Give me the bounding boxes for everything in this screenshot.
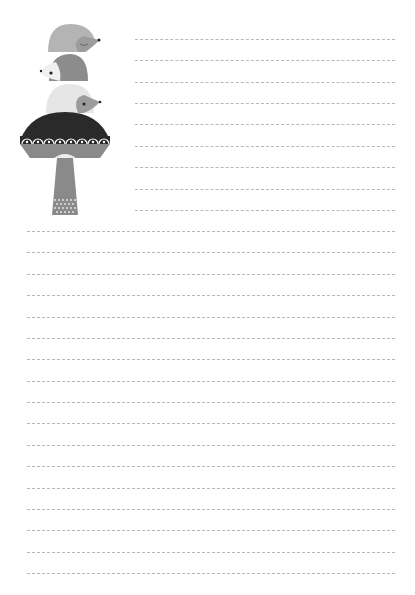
- writing-line: [135, 189, 395, 190]
- writing-line: [27, 509, 395, 510]
- hedgehog-bottom-icon: [46, 84, 101, 113]
- writing-line: [135, 39, 395, 40]
- writing-line: [27, 381, 395, 382]
- writing-line: [27, 445, 395, 446]
- writing-line: [135, 103, 395, 104]
- writing-line: [27, 530, 395, 531]
- writing-line: [27, 423, 395, 424]
- writing-line: [27, 488, 395, 489]
- writing-line: [27, 552, 395, 553]
- writing-line: [135, 167, 395, 168]
- writing-line: [27, 573, 395, 574]
- mushroom-stem: [52, 158, 78, 215]
- writing-line: [135, 60, 395, 61]
- hedgehog-mushroom-illustration: [0, 0, 130, 225]
- writing-line: [135, 146, 395, 147]
- writing-line: [135, 82, 395, 83]
- writing-line: [135, 124, 395, 125]
- writing-line: [27, 231, 395, 232]
- writing-line: [27, 295, 395, 296]
- writing-line: [27, 317, 395, 318]
- writing-line: [135, 210, 395, 211]
- hedgehog-top-icon: [48, 24, 101, 52]
- writing-line: [27, 466, 395, 467]
- writing-line: [27, 338, 395, 339]
- writing-line: [27, 252, 395, 253]
- writing-line: [27, 359, 395, 360]
- hedgehog-middle-icon: [40, 54, 88, 81]
- writing-line: [27, 274, 395, 275]
- writing-line: [27, 402, 395, 403]
- mushroom-cap: [20, 112, 110, 158]
